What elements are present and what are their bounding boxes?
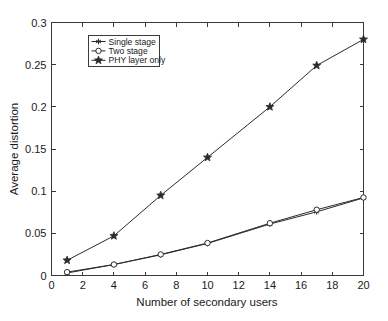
chart-figure: 02468101214161820 00.050.10.150.20.250.3… (0, 0, 388, 321)
legend-label: PHY layer only (109, 55, 166, 65)
x-tick-label: 14 (264, 279, 276, 291)
y-tick-label: 0.1 (31, 185, 46, 197)
y-tick-label: 0.3 (31, 17, 46, 29)
y-tick-label: 0.25 (25, 59, 46, 71)
data-point-marker (158, 252, 163, 257)
series-0 (65, 195, 366, 276)
x-tick-label: 8 (173, 279, 179, 291)
chart-legend: Single stageTwo stagePHY layer only (89, 36, 166, 67)
data-series-group (63, 35, 367, 276)
data-point-marker (96, 48, 101, 53)
y-tick-label: 0.2 (31, 101, 46, 113)
x-axis-tick-labels: 02468101214161820 (48, 279, 369, 291)
y-tick-label: 0.05 (25, 227, 46, 239)
x-axis-title: Number of secondary users (136, 296, 278, 308)
data-point-marker (361, 195, 366, 200)
y-axis-tick-labels: 00.050.10.150.20.250.3 (25, 17, 46, 282)
line-chart: 02468101214161820 00.050.10.150.20.250.3… (0, 0, 388, 321)
x-tick-label: 20 (357, 279, 369, 291)
series-line (67, 39, 363, 260)
data-point-marker (205, 240, 210, 245)
y-tick-label: 0 (40, 270, 46, 282)
x-tick-label: 6 (142, 279, 148, 291)
data-point-marker (360, 35, 368, 43)
y-axis-title: Average distortion (8, 103, 20, 195)
data-point-marker (111, 262, 116, 267)
data-point-marker (64, 269, 69, 274)
data-point-marker (267, 221, 272, 226)
x-tick-label: 18 (326, 279, 338, 291)
data-point-marker (314, 207, 319, 212)
x-tick-label: 10 (201, 279, 213, 291)
x-tick-label: 2 (80, 279, 86, 291)
x-tick-label: 16 (295, 279, 307, 291)
x-tick-label: 0 (48, 279, 54, 291)
y-tick-label: 0.15 (25, 143, 46, 155)
data-point-marker (63, 256, 71, 264)
series-2 (63, 35, 367, 264)
x-tick-label: 12 (233, 279, 245, 291)
x-tick-label: 4 (111, 279, 117, 291)
